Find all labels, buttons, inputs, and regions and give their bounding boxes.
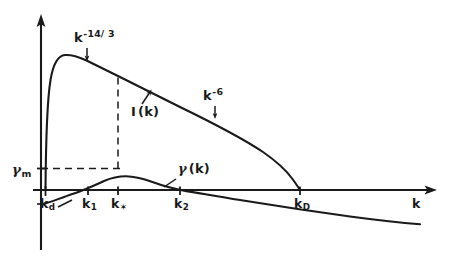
kD-subscript: D [303, 202, 311, 212]
gamma-m-label: γm [12, 161, 31, 179]
power-law-base-6: k [203, 88, 212, 103]
intensity-curve [46, 55, 300, 190]
y-axis [37, 14, 46, 250]
k1-base: k [82, 196, 91, 211]
growth-rate-curve [44, 176, 420, 224]
kd-base: k [40, 196, 49, 211]
power-law-exponent-6: -6 [212, 86, 223, 97]
x-tick-label-k1: k1 [82, 196, 97, 212]
growth-label-rest: (k) [187, 161, 210, 176]
gamma-m-base: γ [12, 161, 21, 177]
growth-rate-curve-path [44, 176, 420, 224]
gamma-m-subscript: m [21, 168, 31, 179]
growth-rate-curve-label: γ(k) [178, 161, 210, 176]
pointer-growth-label [164, 179, 176, 187]
k2-base: k [174, 196, 183, 211]
spectrum-figure: k-14/ 3 k-6 I(k) γ(k) γm kd k1 k✶ k2 kD … [0, 0, 450, 262]
kstar-subscript: ✶ [120, 202, 128, 212]
power-law-label-14-3: k-14/ 3 [74, 28, 115, 45]
kD-base: k [294, 196, 303, 211]
power-law-label-6: k-6 [203, 86, 223, 103]
figure-canvas [0, 0, 450, 262]
x-tick-label-kstar: k✶ [111, 196, 127, 212]
intensity-curve-label: I(k) [131, 104, 159, 119]
k1-subscript: 1 [91, 202, 98, 212]
power-law-exponent-14-3: -14/ 3 [83, 28, 115, 39]
x-tick-label-k2: k2 [174, 196, 189, 212]
intensity-curve-path [46, 55, 300, 190]
x-axis-name-label: k [412, 196, 421, 211]
pointer-kd-label [58, 200, 72, 207]
pointer-intensity-label [142, 92, 150, 104]
kd-subscript: d [49, 202, 56, 212]
x-tick-label-kD: kD [294, 196, 310, 212]
growth-label-base: γ [178, 161, 187, 176]
dashed-guides [41, 76, 123, 169]
power-law-base-14-3: k [74, 30, 83, 45]
annotation-pointers [58, 48, 217, 207]
intensity-label-rest: (k) [136, 104, 159, 119]
kstar-base: k [111, 196, 120, 211]
x-tick-label-kd: kd [40, 196, 55, 212]
k2-subscript: 2 [183, 202, 190, 212]
